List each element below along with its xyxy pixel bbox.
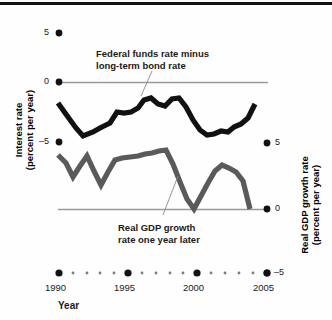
federal-funds-annotation-line1: Federal funds rate minus	[96, 48, 209, 59]
right-axis-title: Real GDP growth rate (percent per year)	[300, 290, 332, 312]
xtick-label-1990: 1990	[45, 283, 66, 294]
real-gdp-annotation-line2: rate one year later	[118, 234, 200, 245]
chart-figure: 5 0 –5 5 0 –5 1990 1995 2000 2005 Year I…	[0, 0, 332, 320]
xtick-dot-minor	[169, 272, 172, 275]
interest-rate-line	[58, 98, 255, 136]
xtick-dot-minor	[182, 272, 185, 275]
xtick-dot-1995	[124, 269, 131, 276]
left-axis-title-unit: (percent per year)	[24, 90, 35, 170]
right-tick-dot-5	[264, 140, 271, 147]
xtick-dot-minor	[86, 272, 89, 275]
xtick-dot-minor	[155, 272, 158, 275]
xtick-dot-minor	[238, 272, 241, 275]
xtick-label-2005: 2005	[253, 283, 274, 294]
left-axis-title-main: Interest rate	[13, 103, 24, 157]
federal-funds-annotation: Federal funds rate minus long-term bond …	[96, 48, 231, 71]
left-tick-label-neg5: –5	[39, 136, 49, 146]
xtick-dot-minor	[72, 272, 75, 275]
left-tick-dot-neg5	[56, 139, 63, 146]
left-tick-label-0: 0	[44, 76, 49, 86]
xtick-dot-1990	[55, 269, 62, 276]
xtick-dot-2005	[263, 269, 270, 276]
xtick-label-1995: 1995	[114, 283, 135, 294]
right-tick-label-neg5: –5	[274, 267, 284, 277]
xtick-dot-minor	[252, 272, 255, 275]
xtick-dot-minor	[224, 272, 227, 275]
right-axis-title-unit: (percent per year)	[310, 165, 321, 245]
left-tick-label-5: 5	[44, 27, 49, 37]
xtick-dot-minor	[141, 272, 144, 275]
real-gdp-annotation-line1: Real GDP growth	[118, 222, 195, 233]
xtick-dot-minor	[99, 272, 102, 275]
xtick-dot-minor	[210, 272, 213, 275]
left-axis-title: Interest rate (percent per year)	[14, 200, 154, 222]
xtick-dot-2000	[193, 269, 200, 276]
xtick-label-2000: 2000	[183, 283, 204, 294]
right-tick-dot-0	[264, 206, 271, 213]
right-tick-label-5: 5	[275, 137, 280, 147]
right-tick-label-0: 0	[275, 203, 280, 213]
left-tick-dot-0	[56, 79, 63, 86]
real-gdp-annotation: Real GDP growth rate one year later	[118, 222, 238, 245]
x-axis-title: Year	[58, 300, 79, 311]
left-tick-dot-5	[56, 30, 63, 37]
federal-funds-leader-line	[141, 71, 152, 96]
xtick-dot-minor	[113, 272, 116, 275]
right-axis-title-main: Real GDP growth rate	[299, 156, 310, 254]
federal-funds-annotation-line2: long-term bond rate	[96, 60, 186, 71]
